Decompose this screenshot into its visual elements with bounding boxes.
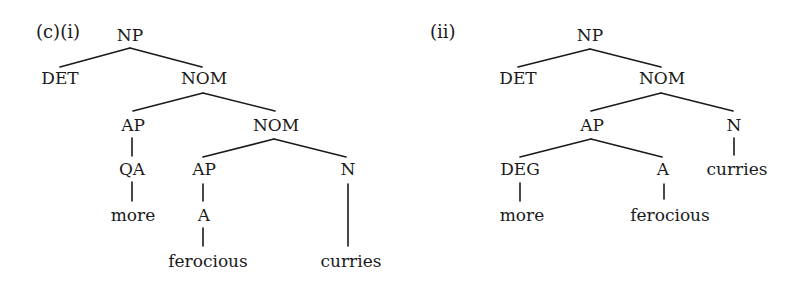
tree-ii-edge-nom-ap	[591, 93, 661, 111]
tree-i-word-more: more	[111, 205, 156, 225]
tree-ii-node-nom: NOM	[639, 68, 685, 88]
tree-ii-edge-np-det	[518, 49, 590, 67]
tree-i-edge-nom-ap	[133, 93, 203, 111]
tree-ii-edge-ap-a	[591, 139, 662, 157]
tree-ii-word-more: more	[500, 205, 545, 225]
tree-i-word-curries: curries	[321, 251, 382, 271]
tree-i-node-np: NP	[117, 25, 143, 45]
tree-ii-edge-np-nom	[590, 49, 661, 67]
tree-ii-node-ap: AP	[579, 115, 604, 135]
tree-i-word-ferocious: ferocious	[168, 251, 248, 271]
tree-i-label: (c)(i)	[36, 21, 80, 42]
tree-ii-word-ferocious: ferocious	[630, 205, 710, 225]
tree-ii-node-det: DET	[499, 68, 537, 88]
tree-i-node-qa: QA	[119, 159, 146, 179]
tree-i-node-ap-inner: AP	[191, 159, 216, 179]
tree-i-node-det: DET	[41, 68, 79, 88]
tree-i-node-ap-left: AP	[120, 115, 145, 135]
tree-i-edge-np-nom	[130, 48, 202, 67]
tree-i-node-nom-inner: NOM	[253, 115, 299, 135]
tree-ii-node-a: A	[656, 159, 670, 179]
tree-ii-edge-ap-deg	[520, 139, 591, 157]
tree-i-edge-nom2-n	[274, 139, 346, 157]
tree-ii-node-deg: DEG	[500, 159, 540, 179]
tree-i-node-nom-top: NOM	[181, 68, 227, 88]
tree-i-edge-nom-nom	[203, 93, 275, 111]
tree-i-node-a: A	[197, 205, 211, 225]
tree-i-edge-np-det	[60, 48, 130, 67]
syntax-tree-diagram: (c)(i) NP DET NOM AP QA more NOM AP A fe…	[0, 0, 794, 284]
tree-i-edge-nom2-ap	[203, 139, 274, 157]
tree-ii: (ii) NP DET NOM AP N curries DEG more A …	[430, 21, 767, 225]
tree-ii-edge-nom-n	[661, 93, 733, 111]
tree-ii-word-curries: curries	[707, 159, 768, 179]
tree-i: (c)(i) NP DET NOM AP QA more NOM AP A fe…	[36, 21, 381, 271]
tree-ii-node-n: N	[727, 115, 742, 135]
tree-ii-node-np: NP	[577, 25, 603, 45]
tree-i-node-n: N	[341, 159, 356, 179]
tree-ii-label: (ii)	[430, 21, 456, 42]
